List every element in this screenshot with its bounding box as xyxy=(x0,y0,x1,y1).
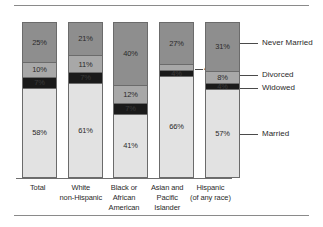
callout-leader-line xyxy=(195,69,203,70)
segment-value-label: 66% xyxy=(169,123,184,131)
segment-value-label: 7% xyxy=(80,74,91,82)
segment-value-label: 31% xyxy=(215,43,230,51)
legend: Never Married Divorced Widowed Married xyxy=(236,0,322,227)
segment-value-label: 11% xyxy=(78,61,92,69)
bar-total[interactable]: 25% 10% 7% 58% xyxy=(22,22,57,178)
segment-never-married[interactable]: 27% xyxy=(160,23,193,64)
segment-divorced[interactable]: 11% xyxy=(69,55,102,72)
x-label-white-non-hispanic: White non-Hispanic xyxy=(59,183,102,213)
legend-leader-divorced xyxy=(240,75,258,76)
segment-value-label: 7% xyxy=(125,105,136,113)
legend-leader-widowed xyxy=(240,88,258,89)
segment-widowed[interactable]: 7% xyxy=(23,77,56,88)
segment-value-label: 58% xyxy=(32,129,47,137)
x-axis-baseline xyxy=(16,178,232,179)
segment-married[interactable]: 41% xyxy=(114,114,147,177)
x-label-black-or-african-american: Black or African American xyxy=(102,183,145,213)
segment-divorced[interactable]: 10% xyxy=(23,62,56,77)
segment-married[interactable]: 66% xyxy=(160,76,193,177)
bar-black-or-african-american[interactable]: 40% 12% 7% 41% xyxy=(113,22,148,178)
segment-value-label: 21% xyxy=(78,35,93,43)
chart-figure: 25% 10% 7% 58% 21% 11% 7% 61% xyxy=(0,0,323,227)
segment-never-married[interactable]: 31% xyxy=(206,23,239,71)
segment-value-label: 40% xyxy=(123,50,138,58)
segment-value-label: 12% xyxy=(123,91,138,99)
legend-leader-never-married xyxy=(240,43,258,44)
legend-leader-married xyxy=(240,134,258,135)
legend-label-never-married[interactable]: Never Married xyxy=(262,39,313,47)
bar-white-non-hispanic[interactable]: 21% 11% 7% 61% xyxy=(68,22,103,178)
segment-value-label: 25% xyxy=(32,39,47,47)
legend-label-married[interactable]: Married xyxy=(262,130,289,138)
segment-widowed[interactable]: 7% xyxy=(114,103,147,114)
segment-value-label: 57% xyxy=(215,130,230,138)
x-label-hispanic: Hispanic (of any race) xyxy=(189,183,232,213)
segment-value-label: 41% xyxy=(123,142,138,150)
segment-married[interactable]: 58% xyxy=(23,88,56,177)
x-label-total: Total xyxy=(16,183,59,213)
segment-value-label: 10% xyxy=(32,66,47,74)
segment-divorced[interactable]: 12% xyxy=(114,85,147,103)
segment-value-label: 7% xyxy=(34,79,45,87)
segment-value-label: 27% xyxy=(169,40,184,48)
bar-asian-and-pacific-islander[interactable]: 27% 4% 4% 66% xyxy=(159,22,194,178)
segment-value-label: 61% xyxy=(78,127,93,135)
bar-hispanic[interactable]: 31% 8% 4% 57% xyxy=(205,22,240,178)
legend-label-widowed[interactable]: Widowed xyxy=(262,84,295,92)
segment-never-married[interactable]: 40% xyxy=(114,23,147,85)
segment-married[interactable]: 61% xyxy=(69,83,102,177)
segment-never-married[interactable]: 21% xyxy=(69,23,102,55)
segment-married[interactable]: 57% xyxy=(206,89,239,177)
segment-never-married[interactable]: 25% xyxy=(23,23,56,62)
legend-label-divorced[interactable]: Divorced xyxy=(262,71,294,79)
x-axis-category-labels: Total White non-Hispanic Black or Africa… xyxy=(16,183,232,213)
segment-widowed[interactable]: 7% xyxy=(69,72,102,83)
segment-value-label: 8% xyxy=(217,74,228,82)
x-label-asian-and-pacific-islander: Asian and Pacific Islander xyxy=(146,183,189,213)
